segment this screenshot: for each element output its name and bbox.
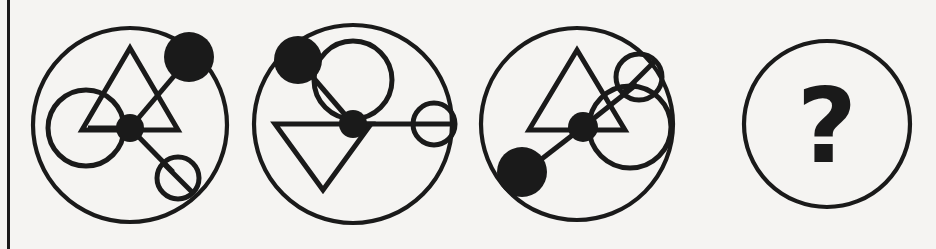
- panel-3-filled-disc-lower-left: [497, 147, 547, 197]
- panel-2[interactable]: [240, 0, 470, 249]
- panel-2-open-circle-top: [314, 41, 392, 119]
- panel-1-slash-stroke-icon: [163, 163, 193, 193]
- panel-1-filled-disc-upper-right: [164, 32, 214, 82]
- panel-1[interactable]: [0, 0, 240, 249]
- panel-1-hub-dot: [116, 114, 144, 142]
- panel-2-filled-disc-upper-left: [274, 36, 322, 84]
- question-mark-label: ?: [797, 65, 857, 187]
- panel-3[interactable]: [470, 0, 710, 249]
- panel-4-answer[interactable]: ?: [710, 0, 936, 249]
- panel-2-hub-dot: [339, 110, 367, 138]
- visual-analogy-figure: ?: [0, 0, 936, 249]
- panel-3-hub-dot: [568, 112, 598, 142]
